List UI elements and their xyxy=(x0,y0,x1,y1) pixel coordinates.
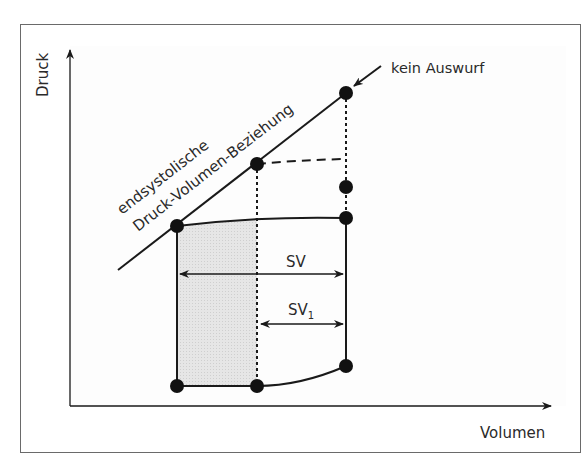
point-aortic-opening xyxy=(339,211,353,225)
pv-diagram: Druck Volumen endsystolische Druck-Volum… xyxy=(0,0,587,474)
point-end-diastolic xyxy=(339,359,353,373)
kein-auswurf-label: kein Auswurf xyxy=(391,60,485,76)
shaded-region xyxy=(177,220,257,386)
point-afterload-opening xyxy=(339,180,353,194)
point-esp-afterload xyxy=(250,157,264,171)
point-kein-auswurf xyxy=(339,86,353,100)
point-mitral-afterload xyxy=(250,379,264,393)
sv-label: SV xyxy=(286,253,307,271)
sv1-label-main: SV xyxy=(288,301,309,319)
sv1-subscript: 1 xyxy=(308,310,314,321)
y-axis-label: Druck xyxy=(34,53,52,97)
x-axis-label: Volumen xyxy=(480,424,545,442)
point-esp-normal xyxy=(170,219,184,233)
point-mitral-normal xyxy=(170,379,184,393)
